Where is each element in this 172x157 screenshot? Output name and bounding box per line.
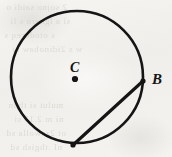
circle-geometry-figure: 2 sojno saidi o si a lgnaro s li s otodo… <box>0 0 172 157</box>
label-point-b: B <box>152 72 162 87</box>
point-bottom-marker-dot <box>70 142 75 147</box>
figure-svg-canvas <box>0 0 172 157</box>
point-b-marker-dot <box>140 78 145 83</box>
center-point-dot <box>72 76 78 82</box>
label-center-c: C <box>70 61 79 75</box>
